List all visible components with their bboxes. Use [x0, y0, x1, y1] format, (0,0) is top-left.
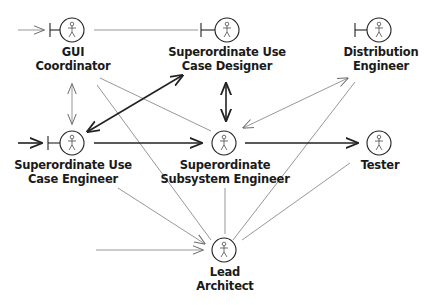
label-line-2: Subsystem Engineer	[160, 172, 289, 186]
label-line-1: Distribution	[344, 45, 419, 59]
label-subsystem-engineer: Superordinate Subsystem Engineer	[160, 158, 289, 186]
label-line-2: Case Engineer	[14, 172, 132, 186]
label-line-1: Superordinate Use	[168, 45, 286, 59]
actor-lead-architect[interactable]	[212, 238, 236, 262]
actor-use-case-engineer[interactable]	[48, 131, 84, 155]
connector-use-case-engineer-lead-architect	[118, 188, 205, 244]
label-tester: Tester	[361, 158, 400, 172]
label-line-1: Superordinate Use	[14, 158, 132, 172]
label-line-2: Coordinator	[36, 59, 111, 73]
label-gui-coordinator: GUI Coordinator	[36, 45, 111, 73]
label-line-1: Superordinate	[160, 158, 289, 172]
label-line-2: Engineer	[344, 59, 419, 73]
label-line-2: Case Designer	[168, 59, 286, 73]
label-lead-architect: Lead Architect	[196, 265, 253, 293]
actor-tester[interactable]	[367, 131, 391, 155]
actor-gui-coordinator[interactable]	[50, 18, 84, 42]
actor-use-case-designer[interactable]	[201, 18, 239, 42]
label-distribution-engineer: Distribution Engineer	[344, 45, 419, 73]
label-line-2: Architect	[196, 279, 253, 293]
actor-subsystem-engineer[interactable]	[212, 131, 236, 155]
connector-distribution-subsystem-engineer	[243, 78, 348, 128]
connector-designer-use-case-engineer	[87, 75, 183, 132]
label-line-1: Lead	[196, 265, 253, 279]
label-line-1: Tester	[361, 158, 400, 172]
label-line-1: GUI	[36, 45, 111, 59]
label-use-case-designer: Superordinate Use Case Designer	[168, 45, 286, 73]
connector-gui-subsystem-engineer	[100, 78, 211, 131]
label-use-case-engineer: Superordinate Use Case Engineer	[14, 158, 132, 186]
actor-distribution-engineer[interactable]	[355, 18, 391, 42]
